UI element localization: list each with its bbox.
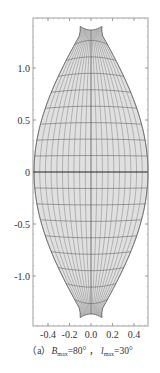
caption-b-sub: max [57,351,67,357]
caption-prefix: （a） [27,346,51,356]
y-tick-label: -0.5 [14,219,30,230]
x-tick-label: 0.0 [85,329,98,340]
figure-caption: （a）Bmax=80° ， lmax=30° [0,343,160,357]
x-tick-label: 0.2 [106,329,119,340]
plot-area [33,26,148,317]
projection-chart: -1.0-0.500.51.0-0.4-0.20.00.20.4 [0,0,160,373]
caption-b-value: =80° [68,346,87,356]
x-tick-label: -0.4 [40,329,56,340]
y-tick-label: -1.0 [14,271,30,282]
x-tick-label: -0.2 [62,329,78,340]
y-tick-label: 0.5 [18,115,31,126]
caption-l-value: =30° [114,346,133,356]
y-tick-label: 1.0 [18,63,31,74]
x-tick-label: 0.4 [128,329,141,340]
caption-separator: ， [86,346,98,356]
caption-l-sub: max [104,351,114,357]
y-tick-label: 0 [25,167,30,178]
